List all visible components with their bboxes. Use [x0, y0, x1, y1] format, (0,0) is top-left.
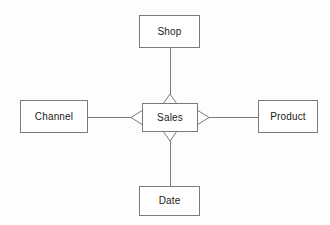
- entity-label-channel: Channel: [35, 112, 73, 122]
- crowsfoot-triangle-down-icon: [163, 131, 177, 141]
- entity-box-shop[interactable]: Shop: [139, 15, 200, 48]
- entity-box-product[interactable]: Product: [258, 100, 318, 133]
- entity-label-product: Product: [270, 112, 306, 122]
- entity-label-shop: Shop: [158, 27, 182, 37]
- diagram-canvas: Shop Channel Product Date Sales: [0, 0, 330, 225]
- crowsfoot-triangle-right-icon: [197, 110, 209, 125]
- entity-label-date: Date: [159, 196, 181, 206]
- fact-table-box-sales[interactable]: Sales: [142, 103, 198, 132]
- entity-box-channel[interactable]: Channel: [20, 100, 88, 133]
- fact-table-label-sales: Sales: [157, 113, 183, 123]
- entity-box-date[interactable]: Date: [139, 186, 200, 216]
